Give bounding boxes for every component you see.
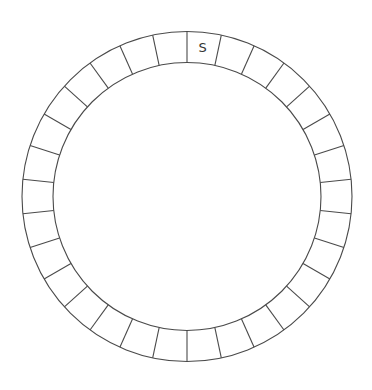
ring-segment-22[interactable] [22,179,54,213]
segment-label: S [198,40,206,55]
segment-labels: S [198,40,206,55]
inner-circle [53,63,321,331]
segmented-ring-diagram: S [0,0,372,390]
ring-segment-7[interactable] [320,179,352,213]
ring-segments [22,32,352,362]
ring-svg: S [0,0,372,390]
